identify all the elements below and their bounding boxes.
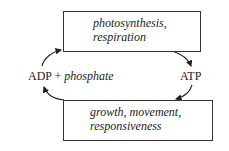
arrow-adp-to-top-box [42,50,61,66]
arrow-top-box-to-atp [172,51,191,66]
top-box-line-2: respiration [93,31,146,44]
arrow-bottom-box-to-adp [44,87,64,100]
plus-sign: + [55,69,62,83]
bottom-box-line-2: responsiveness [90,120,162,133]
adp-text: ADP [28,69,52,83]
atp-label: ATP [180,70,201,83]
bottom-box-line-1: growth, movement, [90,106,181,119]
phosphate-text: phosphate [64,69,113,83]
arrow-atp-to-bottom-box [176,85,192,99]
adp-phosphate-label: ADP + phosphate [28,70,114,83]
top-box-line-1: photosynthesis, [93,17,167,30]
